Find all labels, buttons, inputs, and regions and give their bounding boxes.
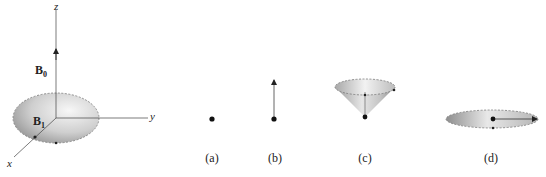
b1-tip-dot: [33, 135, 36, 138]
panel-c-caption: (c): [358, 151, 371, 166]
magnetization-dot: [209, 116, 214, 121]
panel-b: [271, 80, 276, 122]
transverse-rim-dot: [492, 127, 495, 130]
mri-magnetization-diagram: z y x B0 B1 (a) (b) (c) (d): [0, 0, 546, 177]
panel-c: [335, 79, 395, 119]
panel-a: [209, 116, 214, 121]
axes-group: [13, 10, 148, 157]
magnetization-dot: [271, 116, 276, 121]
panel-a-caption: (a): [205, 151, 218, 166]
panel-d: [446, 110, 538, 129]
x-axis-label: x: [7, 157, 12, 169]
panel-b-caption: (b): [268, 151, 282, 166]
cone-apex-dot: [363, 115, 368, 120]
disc-edge-dot: [55, 142, 58, 145]
z-axis-label: z: [54, 0, 58, 12]
b0-label: B0: [35, 63, 47, 79]
cone-rim-dot-center: [364, 94, 367, 97]
y-axis-label: y: [150, 110, 155, 122]
panel-d-caption: (d): [484, 151, 498, 166]
cone-rim-dot-right: [393, 89, 396, 92]
b1-label: B1: [33, 114, 45, 130]
transverse-center-dot: [491, 117, 496, 122]
